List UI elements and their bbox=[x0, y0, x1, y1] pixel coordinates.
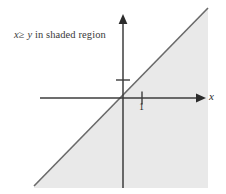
x-axis-label: x bbox=[209, 90, 214, 102]
caption-relation-symbol: ≥ bbox=[19, 29, 25, 40]
x-axis-tick-label-1: 1 bbox=[139, 101, 144, 112]
caption-variable-y: y bbox=[27, 29, 32, 40]
y-axis-arrowhead-icon bbox=[119, 14, 128, 24]
inequality-figure: x≥ y in shaded region x 1 bbox=[0, 0, 226, 194]
inequality-caption: x≥ y in shaded region bbox=[14, 29, 106, 40]
caption-trailing-text: in shaded region bbox=[35, 29, 106, 40]
